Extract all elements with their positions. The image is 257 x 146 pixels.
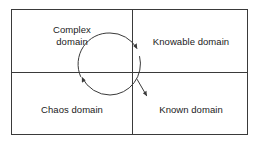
quadrant-label-known: Known domain <box>136 104 246 116</box>
exit-arrow-to-known <box>137 80 146 96</box>
diagram-canvas <box>0 0 257 146</box>
quadrant-label-knowable-line1: Knowable domain <box>153 36 229 47</box>
quadrant-label-knowable: Knowable domain <box>136 36 246 48</box>
quadrant-label-known-line1: Known domain <box>159 104 222 115</box>
quadrant-label-chaos: Chaos domain <box>14 104 130 116</box>
quadrant-label-complex-line1: Complex <box>53 24 91 35</box>
quadrant-label-chaos-line1: Chaos domain <box>41 104 103 115</box>
quadrant-label-complex: Complex domain <box>14 24 130 47</box>
flow-arc-lower <box>82 57 140 96</box>
quadrant-label-complex-line2: domain <box>56 36 87 47</box>
cynefin-diagram: Complex domain Knowable domain Chaos dom… <box>0 0 257 146</box>
